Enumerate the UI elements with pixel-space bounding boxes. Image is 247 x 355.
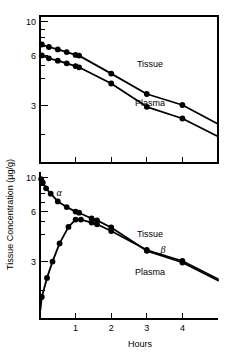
- bottom-plasma-point: [40, 180, 46, 186]
- top-tissue-point: [76, 53, 82, 59]
- top-ytick-label-10: 10: [26, 17, 36, 27]
- top-tissue-label: Tissue: [137, 59, 163, 69]
- y-axis-title-text: Tissue Concentration (µg/g): [5, 159, 15, 270]
- bottom-plasma-label: Plasma: [135, 267, 165, 277]
- chart-canvas: Tissue Concentration (µg/g) 10 6: [0, 0, 247, 355]
- bottom-tissue-point: [94, 221, 100, 227]
- bottom-tissue-point: [66, 224, 72, 230]
- bottom-plasma-point: [43, 185, 49, 191]
- bottom-tissue-label: Tissue: [137, 229, 163, 239]
- bottom-tissue-point: [89, 220, 95, 226]
- top-tissue-point: [180, 102, 186, 108]
- top-tissue-point: [39, 42, 45, 48]
- top-plasma-point: [46, 55, 52, 61]
- top-tissue-point: [46, 44, 52, 50]
- bottom-plasma-point: [76, 210, 82, 216]
- top-tissue-point: [144, 91, 150, 97]
- bottom-xtick-label-3: 3: [144, 323, 149, 333]
- top-tissue-point: [64, 49, 70, 55]
- bottom-tissue-point: [50, 259, 56, 265]
- top-tissue-point: [108, 71, 114, 77]
- bottom-tissue-point: [39, 294, 45, 300]
- top-ytick-label-3: 3: [31, 101, 36, 111]
- bottom-xtick-label-2: 2: [109, 323, 114, 333]
- beta-phase-label: β: [160, 244, 166, 255]
- top-plasma-point: [64, 60, 70, 66]
- bottom-ytick-label-10: 10: [26, 173, 36, 183]
- y-axis-title: Tissue Concentration (µg/g): [5, 159, 15, 270]
- bottom-tissue-point: [44, 275, 50, 281]
- x-axis-title: Hours: [128, 339, 153, 349]
- bottom-xtick-label-4: 4: [180, 323, 185, 333]
- bottom-plasma-point: [48, 191, 54, 197]
- bottom-ytick-label-3: 3: [31, 257, 36, 267]
- pharmacokinetic-figure: Tissue Concentration (µg/g) 10 6: [0, 0, 247, 355]
- top-ytick-label-6: 6: [31, 51, 36, 61]
- bottom-tissue-point: [73, 217, 79, 223]
- bottom-xtick-label-1: 1: [73, 323, 78, 333]
- bottom-plasma-point: [64, 204, 70, 210]
- bottom-tissue-point: [180, 258, 186, 264]
- bottom-tissue-point: [108, 228, 114, 234]
- bottom-tissue-point: [144, 247, 150, 253]
- bottom-ytick-label-6: 6: [31, 207, 36, 217]
- bottom-plasma-point: [55, 199, 61, 205]
- chart-background: [0, 0, 247, 355]
- bottom-tissue-point: [57, 241, 63, 247]
- top-plasma-point: [76, 64, 82, 70]
- top-plasma-point: [180, 116, 186, 122]
- top-plasma-point: [108, 81, 114, 87]
- top-plasma-point: [39, 53, 45, 59]
- bottom-tissue-point: [78, 217, 84, 223]
- top-plasma-point: [55, 58, 61, 64]
- top-tissue-point: [55, 47, 61, 53]
- alpha-phase-label: α: [56, 187, 62, 198]
- top-plasma-label: Plasma: [135, 98, 165, 108]
